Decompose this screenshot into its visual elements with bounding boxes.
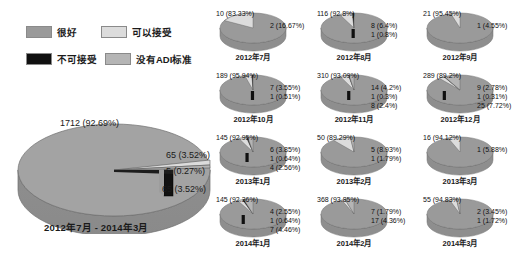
small-pie-value-label: 1 (0.64%)	[270, 217, 300, 224]
small-pie-value-label: 17 (4.36%)	[371, 217, 405, 224]
main-chart-title: 2012年7月 - 2014年3月	[44, 220, 149, 234]
small-pie-value-label: 289 (89.2%)	[423, 72, 461, 79]
legend-row: 很好 可以接受	[26, 22, 206, 42]
small-pie-value-label: 1 (1.79%)	[371, 155, 401, 162]
small-pie-value-label: 189 (95.94%)	[216, 72, 258, 79]
legend-swatch-no-adi	[105, 53, 131, 65]
small-pie-value-label: 1 (4.55%)	[477, 22, 507, 29]
small-pie-panel: 289 (89.2%)9 (2.78%)1 (0.31%)25 (7.72%)2…	[405, 68, 515, 130]
small-pie-value-label: 8 (2.4%)	[371, 102, 397, 109]
main-pie-graphic: 1712 (92.69%) 65 (3.52%) 5 (0.27%) 65 (3…	[14, 104, 214, 234]
small-pie-value-label: 6 (3.85%)	[270, 146, 300, 153]
small-pie-value-label: 310 (93.09%)	[317, 72, 359, 79]
main-pie-chart: 1712 (92.69%) 65 (3.52%) 5 (0.27%) 65 (3…	[14, 104, 214, 234]
small-pie-value-label: 8 (6.4%)	[371, 22, 397, 29]
small-pie-value-label: 4 (2.56%)	[270, 164, 300, 171]
legend-label-acceptable: 可以接受	[132, 25, 172, 39]
legend-label-good: 很好	[57, 25, 77, 39]
small-pie-panel: 145 (92.36%)4 (2.55%)1 (0.64%)7 (4.46%)2…	[198, 192, 308, 254]
small-multiples-grid: 10 (83.33%)2 (16.67%)2012年7月116 (92.8%)8…	[198, 2, 529, 257]
small-pie-value-label: 50 (89.29%)	[317, 134, 355, 141]
small-pie-title: 2013年1月	[198, 175, 308, 186]
small-pie-value-label: 5 (8.93%)	[371, 146, 401, 153]
legend-swatch-good	[26, 26, 52, 38]
legend-item-unacceptable: 不可接受	[26, 52, 97, 66]
small-pie-value-label: 7 (4.46%)	[270, 226, 300, 233]
small-pie-value-label: 1 (0.51%)	[270, 93, 300, 100]
small-pie-panel: 16 (94.12%)1 (5.88%)2013年3月	[405, 130, 515, 192]
legend-swatch-unacceptable	[26, 53, 52, 65]
small-pie-value-label: 1 (0.8%)	[371, 31, 397, 38]
small-pie-panel: 21 (95.45%)1 (4.55%)2012年9月	[405, 6, 515, 68]
small-pie-title: 2012年10月	[198, 113, 308, 124]
small-pie-value-label: 9 (2.78%)	[477, 84, 507, 91]
small-pie-value-label: 21 (95.45%)	[423, 10, 461, 17]
small-pie-value-label: 1 (0.31%)	[477, 93, 507, 100]
small-pie-value-label: 145 (92.95%)	[216, 134, 258, 141]
small-pie-value-label: 14 (4.2%)	[371, 84, 401, 91]
small-pie-value-label: 4 (2.55%)	[270, 208, 300, 215]
small-pie-title: 2012年7月	[198, 51, 308, 62]
small-pie-value-label: 1 (1.72%)	[477, 217, 507, 224]
legend-item-acceptable: 可以接受	[101, 25, 172, 39]
small-pie-title: 2013年2月	[299, 175, 409, 186]
legend-item-no-adi: 没有ADI标准	[105, 52, 192, 66]
small-pie-title: 2013年3月	[405, 175, 515, 186]
small-pie-value-label: 1 (0.64%)	[270, 155, 300, 162]
small-pie-value-label: 55 (94.83%)	[423, 196, 461, 203]
legend-label-no-adi: 没有ADI标准	[136, 52, 192, 66]
small-pie-title: 2012年11月	[299, 113, 409, 124]
small-pie-title: 2012年12月	[405, 113, 515, 124]
small-pie-value-label: 16 (94.12%)	[423, 134, 461, 141]
small-pie-title: 2012年9月	[405, 51, 515, 62]
main-label-good: 1712 (92.69%)	[60, 118, 119, 128]
small-pie-title: 2012年8月	[299, 51, 409, 62]
small-pie-panel: 189 (95.94%)7 (3.55%)1 (0.51%)2012年10月	[198, 68, 308, 130]
small-pie-title: 2014年2月	[299, 237, 409, 248]
legend-label-unacceptable: 不可接受	[57, 52, 97, 66]
small-pie-panel: 10 (83.33%)2 (16.67%)2012年7月	[198, 6, 308, 68]
legend-row: 不可接受 没有ADI标准	[26, 49, 206, 69]
small-pie-value-label: 2 (3.45%)	[477, 208, 507, 215]
small-pie-panel: 368 (93.85%)7 (1.79%)17 (4.36%)2014年2月	[299, 192, 409, 254]
small-pie-value-label: 1 (0.3%)	[371, 93, 397, 100]
small-pie-title: 2014年1月	[198, 237, 308, 248]
small-pie-value-label: 1 (5.88%)	[477, 146, 507, 153]
small-pie-value-label: 116 (92.8%)	[317, 10, 355, 17]
small-pie-panel: 310 (93.09%)14 (4.2%)1 (0.3%)8 (2.4%)201…	[299, 68, 409, 130]
small-pie-value-label: 7 (1.79%)	[371, 208, 401, 215]
small-pie-value-label: 368 (93.85%)	[317, 196, 359, 203]
small-pie-value-label: 7 (3.55%)	[270, 84, 300, 91]
small-pie-value-label: 25 (7.72%)	[477, 102, 511, 109]
small-pie-panel: 145 (92.95%)6 (3.85%)1 (0.64%)4 (2.56%)2…	[198, 130, 308, 192]
small-pie-panel: 116 (92.8%)8 (6.4%)1 (0.8%)2012年8月	[299, 6, 409, 68]
legend: 很好 可以接受 不可接受 没有ADI标准	[26, 22, 206, 76]
small-pie-value-label: 145 (92.36%)	[216, 196, 258, 203]
legend-item-good: 很好	[26, 25, 77, 39]
small-pie-value-label: 10 (83.33%)	[216, 10, 254, 17]
small-pie-panel: 55 (94.83%)2 (3.45%)1 (1.72%)2014年3月	[405, 192, 515, 254]
small-pie-panel: 50 (89.29%)5 (8.93%)1 (1.79%)2013年2月	[299, 130, 409, 192]
legend-swatch-acceptable	[101, 26, 127, 38]
small-pie-title: 2014年3月	[405, 237, 515, 248]
